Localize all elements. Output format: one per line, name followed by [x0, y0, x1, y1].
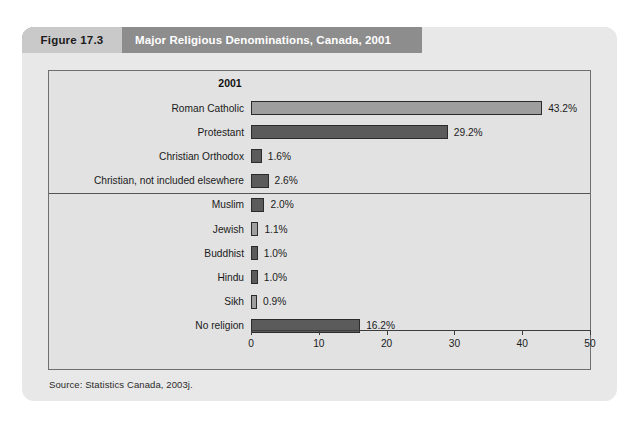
- bar-track: 1.6%: [251, 144, 590, 168]
- bar-category-label: Hindu: [49, 272, 251, 283]
- bar-category-label: Muslim: [49, 199, 251, 210]
- column-header-year: 2001: [199, 77, 261, 89]
- bar: [251, 174, 269, 188]
- bar-track: 43.2%: [251, 96, 590, 120]
- axis-tick: [454, 330, 455, 335]
- axis-tick: [251, 330, 252, 335]
- axis-tick-label: 10: [313, 338, 324, 349]
- bar-value-label: 1.6%: [268, 151, 291, 162]
- bar-value-label: 1.0%: [264, 272, 287, 283]
- bar-track: 16.2%: [251, 314, 590, 338]
- bar-category-label: Protestant: [49, 127, 251, 138]
- chart-plot-area: 2001 Roman Catholic43.2%Protestant29.2%C…: [48, 70, 591, 370]
- bar-category-label: Jewish: [49, 224, 251, 235]
- bar-row: Christian Orthodox1.6%: [49, 144, 590, 168]
- bar-row: Hindu1.0%: [49, 265, 590, 289]
- axis-tick-label: 40: [517, 338, 528, 349]
- axis-tick: [387, 330, 388, 335]
- group-separator-line: [49, 193, 590, 194]
- bar-track: 1.1%: [251, 217, 590, 241]
- bar-category-label: Roman Catholic: [49, 103, 251, 114]
- bar-track: 0.9%: [251, 290, 590, 314]
- bar: [251, 270, 258, 284]
- axis-tick-label: 30: [449, 338, 460, 349]
- bar-rows: Roman Catholic43.2%Protestant29.2%Christ…: [49, 96, 590, 338]
- bar-category-label: Sikh: [49, 296, 251, 307]
- bar-category-label: Buddhist: [49, 248, 251, 259]
- axis-tick-label: 20: [381, 338, 392, 349]
- bar-track: 2.0%: [251, 193, 590, 217]
- figure-container: Figure 17.3 Major Religious Denomination…: [22, 27, 617, 401]
- bar-category-label: Christian, not included elsewhere: [49, 175, 251, 186]
- bar-row: Jewish1.1%: [49, 217, 590, 241]
- bar-row: Roman Catholic43.2%: [49, 96, 590, 120]
- bar-track: 29.2%: [251, 120, 590, 144]
- bar-row: Sikh0.9%: [49, 290, 590, 314]
- bar-value-label: 1.0%: [264, 248, 287, 259]
- bar-row: Muslim2.0%: [49, 193, 590, 217]
- bar-value-label: 2.0%: [270, 199, 293, 210]
- bar-category-label: Christian Orthodox: [49, 151, 251, 162]
- bar-row: Buddhist1.0%: [49, 241, 590, 265]
- bar: [251, 101, 542, 115]
- x-axis: 01020304050: [251, 330, 590, 331]
- figure-title: Major Religious Denominations, Canada, 2…: [122, 27, 422, 53]
- bar-track: 2.6%: [251, 169, 590, 193]
- bar: [251, 222, 258, 236]
- bar: [251, 246, 258, 260]
- source-note: Source: Statistics Canada, 2003j.: [49, 379, 193, 390]
- bar-value-label: 2.6%: [275, 175, 298, 186]
- axis-tick-label: 0: [248, 338, 254, 349]
- bar: [251, 295, 257, 309]
- bar-value-label: 43.2%: [548, 103, 577, 114]
- bar: [251, 149, 262, 163]
- bar-row: Christian, not included elsewhere2.6%: [49, 169, 590, 193]
- axis-tick: [590, 330, 591, 335]
- bar-category-label: No religion: [49, 320, 251, 331]
- axis-tick: [522, 330, 523, 335]
- axis-tick: [319, 330, 320, 335]
- bar-track: 1.0%: [251, 241, 590, 265]
- bar: [251, 125, 448, 139]
- bar-row: Protestant29.2%: [49, 120, 590, 144]
- bar-value-label: 1.1%: [264, 224, 287, 235]
- bar: [251, 198, 264, 212]
- bar-track: 1.0%: [251, 265, 590, 289]
- figure-number-label: Figure 17.3: [22, 27, 122, 53]
- axis-tick-label: 50: [584, 338, 595, 349]
- bar-value-label: 29.2%: [454, 127, 483, 138]
- bar-value-label: 0.9%: [263, 296, 286, 307]
- figure-header: Figure 17.3 Major Religious Denomination…: [22, 27, 422, 53]
